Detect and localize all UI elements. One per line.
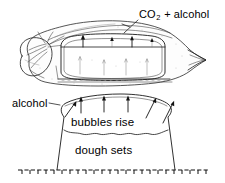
- label-bubbles-rise: bubbles rise: [71, 117, 134, 129]
- shelf-ticks: [22, 170, 206, 174]
- label-dough-sets: dough sets: [75, 145, 132, 157]
- alcohol-leader-line: [49, 103, 60, 105]
- label-co2-prefix: CO: [139, 8, 156, 20]
- label-co2-alcohol: CO2 + alcohol: [139, 9, 209, 22]
- label-alcohol: alcohol: [12, 98, 48, 109]
- panel-dough-in-bag: [20, 20, 206, 86]
- bread-rising-diagram: CO2 + alcohol alcohol bubbles rise dough…: [0, 0, 225, 183]
- label-co2-suffix: + alcohol: [161, 8, 209, 20]
